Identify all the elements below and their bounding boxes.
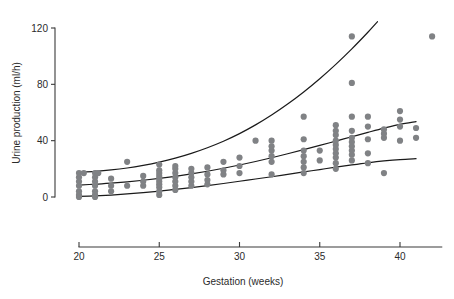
data-point (204, 164, 210, 170)
data-point (413, 125, 419, 131)
data-point (349, 114, 355, 120)
data-point (349, 157, 355, 163)
data-point (301, 147, 307, 153)
data-point (95, 170, 101, 176)
data-point (301, 114, 307, 120)
data-point (333, 166, 339, 172)
x-tick-label: 30 (234, 251, 246, 262)
data-points-group (76, 33, 435, 200)
data-point (236, 163, 242, 169)
data-point (108, 176, 114, 182)
data-point (220, 167, 226, 173)
data-point (349, 80, 355, 86)
data-point (204, 177, 210, 183)
data-point (301, 170, 307, 176)
x-axis-group: 2025303540 (73, 242, 441, 262)
data-point (124, 183, 130, 189)
data-point (365, 160, 371, 166)
upper-reference-curve (79, 22, 378, 173)
chart-svg: 04080120 2025303540 Urine production (ml… (0, 0, 454, 299)
data-point (269, 171, 275, 177)
data-point (381, 170, 387, 176)
data-point (301, 153, 307, 159)
data-point (349, 135, 355, 141)
data-point (92, 188, 98, 194)
data-point (333, 160, 339, 166)
x-axis-title: Gestation (weeks) (203, 276, 284, 287)
y-tick-label: 40 (37, 135, 49, 146)
y-axis-group: 04080120 (31, 23, 55, 203)
data-point (108, 183, 114, 189)
x-tick-label: 35 (314, 251, 326, 262)
scatter-chart: 04080120 2025303540 Urine production (ml… (0, 0, 454, 299)
x-axis-ticks: 2025303540 (73, 242, 406, 262)
data-point (140, 173, 146, 179)
data-point (413, 135, 419, 141)
data-point (349, 33, 355, 39)
data-point (365, 150, 371, 156)
data-point (269, 138, 275, 144)
data-point (301, 159, 307, 165)
data-point (397, 138, 403, 144)
data-point (108, 188, 114, 194)
data-point (220, 159, 226, 165)
reference-curves-group (79, 22, 416, 197)
data-point (397, 108, 403, 114)
data-point (365, 136, 371, 142)
data-point (365, 114, 371, 120)
data-point (252, 138, 258, 144)
data-point (188, 166, 194, 172)
data-point (156, 167, 162, 173)
y-tick-label: 120 (31, 23, 48, 34)
data-point (333, 138, 339, 144)
data-point (81, 170, 87, 176)
data-point (269, 143, 275, 149)
data-point (317, 157, 323, 163)
data-point (349, 128, 355, 134)
y-tick-label: 0 (42, 192, 48, 203)
data-point (429, 33, 435, 39)
x-tick-label: 25 (154, 251, 166, 262)
data-point (301, 136, 307, 142)
data-point (301, 164, 307, 170)
data-point (317, 147, 323, 153)
data-point (140, 178, 146, 184)
y-axis-ticks: 04080120 (31, 23, 55, 203)
data-point (269, 153, 275, 159)
data-point (76, 188, 82, 194)
data-point (397, 116, 403, 122)
data-point (269, 159, 275, 165)
data-point (172, 163, 178, 169)
y-axis-title: Urine production (ml/h) (11, 62, 22, 164)
data-point (333, 122, 339, 128)
data-point (236, 170, 242, 176)
x-tick-label: 20 (73, 251, 85, 262)
data-point (365, 123, 371, 129)
data-point (397, 123, 403, 129)
x-tick-label: 40 (394, 251, 406, 262)
data-point (204, 171, 210, 177)
data-point (124, 159, 130, 165)
y-tick-label: 80 (37, 79, 49, 90)
data-point (381, 126, 387, 132)
data-point (333, 128, 339, 134)
data-point (236, 154, 242, 160)
data-point (156, 162, 162, 168)
